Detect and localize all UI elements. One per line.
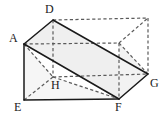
geometry-svg: [0, 0, 164, 119]
geometry-figure: ADEFGH: [0, 0, 164, 119]
edge-E-F: [24, 99, 119, 100]
hidden-edge-B-C: [119, 18, 148, 43]
vertex-label-D: D: [45, 3, 54, 15]
vertex-label-F: F: [115, 101, 122, 113]
hidden-edge-D-C: [53, 18, 148, 20]
vertex-label-H: H: [51, 79, 60, 91]
vertex-label-G: G: [150, 77, 159, 89]
vertex-label-A: A: [9, 32, 18, 44]
vertex-label-E: E: [14, 101, 21, 113]
